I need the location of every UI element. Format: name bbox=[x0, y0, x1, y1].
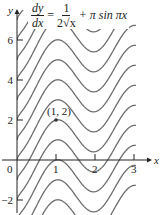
x-axis-arrow-icon bbox=[147, 158, 152, 163]
solution-curves bbox=[17, 0, 136, 215]
lhs-fraction: dy dx bbox=[31, 2, 44, 29]
lhs-numerator: dy bbox=[31, 2, 44, 16]
rhs-denominator: 2√x bbox=[57, 16, 76, 29]
x-tick-label: 2 bbox=[92, 163, 98, 175]
rhs-numerator: 1 bbox=[62, 2, 70, 16]
equals-sign: = bbox=[47, 8, 54, 23]
differential-equation-title: dy dx = 1 2√x + π sin πx bbox=[28, 2, 129, 29]
x-tick-label: 0 bbox=[7, 163, 13, 175]
y-axis-arrow-icon bbox=[15, 9, 20, 14]
point-label: (1, 2) bbox=[47, 105, 71, 118]
y-tick-label: −2 bbox=[1, 194, 13, 206]
y-axis-label: y bbox=[7, 4, 13, 16]
x-tick-label: 1 bbox=[53, 163, 59, 175]
x-axis-label: x bbox=[153, 154, 159, 166]
point-marker bbox=[54, 118, 58, 122]
y-tick-label: 2 bbox=[8, 114, 14, 126]
y-tick-label: 6 bbox=[8, 34, 14, 46]
rhs-sine-term: + π sin πx bbox=[79, 8, 127, 23]
y-tick-label: 4 bbox=[8, 74, 14, 86]
rhs-fraction: 1 2√x bbox=[57, 2, 76, 29]
chart-plot-area: xy0123−2246 (1, 2) bbox=[0, 0, 161, 215]
lhs-denominator: dx bbox=[32, 16, 43, 29]
x-tick-label: 3 bbox=[131, 163, 137, 175]
solution-curve bbox=[17, 145, 136, 215]
